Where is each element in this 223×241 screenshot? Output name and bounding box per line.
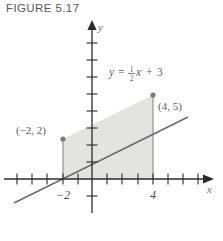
shaded-region — [63, 95, 153, 179]
figure-container: FIGURE 5.17 — [0, 0, 223, 241]
equation-x: x — [135, 66, 142, 78]
point-label-right: (4, 5) — [158, 100, 182, 113]
point-marker-right — [150, 92, 155, 97]
x-axis-label: x — [206, 183, 212, 195]
equation-denominator: 2 — [130, 74, 134, 83]
coordinate-plot: x y −2 4 (−2, 2) (4, 5) y = 1 2 x + 3 — [0, 0, 223, 241]
point-label-left: (−2, 2) — [16, 124, 46, 137]
x-tick-label-neg2: −2 — [56, 188, 70, 202]
equation-equals: = — [118, 66, 125, 78]
equation-constant: 3 — [157, 66, 163, 78]
y-axis-arrow-icon — [87, 20, 96, 30]
equation-y: y — [108, 66, 115, 79]
point-marker-left — [60, 136, 65, 141]
x-tick-label-4: 4 — [150, 188, 156, 202]
y-axis-label: y — [97, 21, 103, 33]
equation-label: y = 1 2 x + 3 — [108, 65, 163, 83]
equation-plus: + — [146, 66, 153, 78]
